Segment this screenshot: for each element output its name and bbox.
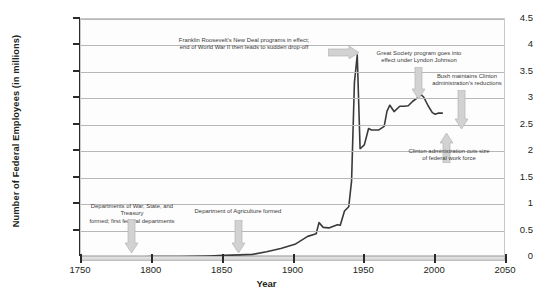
gridline [81,125,504,126]
annotation-great-society: Great Society program goes into effect u… [357,50,481,65]
x-tick-label: 1900 [273,264,313,275]
x-tick-label: 1750 [60,264,100,275]
annotation-new-deal-line1: Franklin Roosevelt's New Deal programs i… [146,37,342,44]
y-tick-mark [73,149,80,151]
gridline [81,98,504,99]
annotation-great-society-line1: Great Society program goes into [357,50,481,57]
y-axis-title: Number of Federal Employees (in millions… [2,0,30,262]
x-tick-label: 2000 [414,264,454,275]
y-tick-mark [73,202,80,204]
arrow-down-first-departments [125,219,138,254]
annotation-clinton-cuts: Clinton administration cuts size of fede… [385,148,513,163]
gridline [81,231,504,232]
y-tick-mark [73,176,80,178]
x-tick-label: 2050 [485,264,525,275]
annotation-bush-maintains: Bush maintains Clinton administration's … [408,73,526,88]
federal-employees-line-chart: Number of Federal Employees (in millions… [0,0,533,299]
annotation-agriculture: Department of Agriculture formed [192,208,284,215]
x-tick-mark [222,254,224,263]
x-tick-label: 1850 [202,264,242,275]
x-tick-mark [434,254,436,263]
y-tick-mark [73,70,80,72]
y-tick-mark [73,96,80,98]
gridline [81,178,504,179]
x-tick-mark [80,254,82,263]
gridline [81,19,504,20]
annotation-bush-maintains-line2: administration's reductions [408,80,526,87]
annotation-great-society-line2: effect under Lyndon Johnson [357,57,481,64]
y-axis-title-text: Number of Federal Employees (in millions… [10,35,22,228]
y-tick-mark [73,43,80,45]
x-tick-mark [151,254,153,263]
x-tick-mark [363,254,365,263]
annotation-agriculture-line1: Department of Agriculture formed [192,208,284,215]
arrow-right-new-deal [328,46,360,59]
y-tick-mark [73,123,80,125]
arrow-down-agriculture [232,220,245,254]
annotation-bush-maintains-line1: Bush maintains Clinton [408,73,526,80]
x-axis-title: Year [0,278,533,289]
x-tick-label: 1800 [131,264,171,275]
y-tick-mark [73,17,80,19]
y-tick-mark [73,229,80,231]
x-tick-label: 1950 [343,264,383,275]
x-tick-mark [505,254,507,263]
annotation-clinton-cuts-line1: Clinton administration cuts size [385,148,513,155]
x-tick-mark [293,254,295,263]
annotation-clinton-cuts-line2: of federal work force [385,155,513,162]
x-axis-title-text: Year [256,278,276,289]
arrow-down-bush-maintains [455,90,468,130]
annotation-new-deal: Franklin Roosevelt's New Deal programs i… [146,37,342,52]
annotation-new-deal-line2: end of World War II then leads to sudden… [146,44,342,51]
annotation-first-departments-line1: Departments of War, State, and Treasury [80,203,184,218]
